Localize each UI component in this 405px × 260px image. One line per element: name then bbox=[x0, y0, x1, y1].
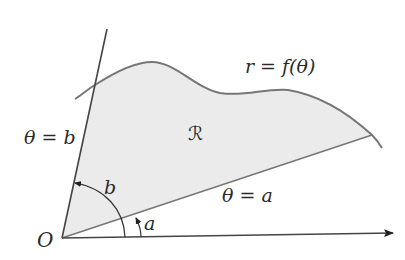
ray-a-label: θ = a bbox=[222, 186, 273, 205]
angle-b-label: b bbox=[104, 178, 116, 197]
region-label: ℛ bbox=[188, 124, 203, 143]
curve-label: r = f(θ) bbox=[245, 57, 315, 76]
angle-arc-a bbox=[136, 218, 141, 237]
polar-region-diagram: r = f(θ) ℛ θ = b b θ = a a O bbox=[0, 0, 405, 260]
angle-a-label: a bbox=[144, 214, 155, 233]
ray-b-label: θ = b bbox=[24, 128, 76, 147]
origin-label: O bbox=[37, 230, 53, 250]
polar-axis-arrow bbox=[62, 233, 393, 238]
